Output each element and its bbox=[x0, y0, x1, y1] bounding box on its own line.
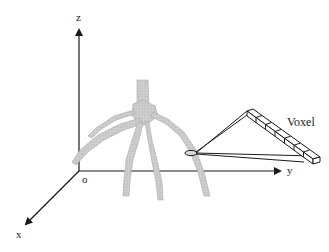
origin-label: o bbox=[82, 174, 88, 185]
root-branch-center bbox=[123, 122, 143, 196]
diagram-canvas bbox=[0, 0, 329, 252]
root-system bbox=[72, 80, 210, 200]
x-axis bbox=[26, 171, 79, 224]
voxel-label: Voxel bbox=[287, 116, 315, 128]
sample-region-marker bbox=[185, 150, 197, 155]
axes bbox=[26, 30, 280, 224]
x-axis-label: x bbox=[16, 229, 22, 240]
y-axis-label: y bbox=[287, 165, 293, 176]
root-branch-center-2 bbox=[145, 122, 163, 200]
z-axis-label: z bbox=[76, 12, 81, 23]
callout-line-upper-2 bbox=[196, 115, 247, 152]
